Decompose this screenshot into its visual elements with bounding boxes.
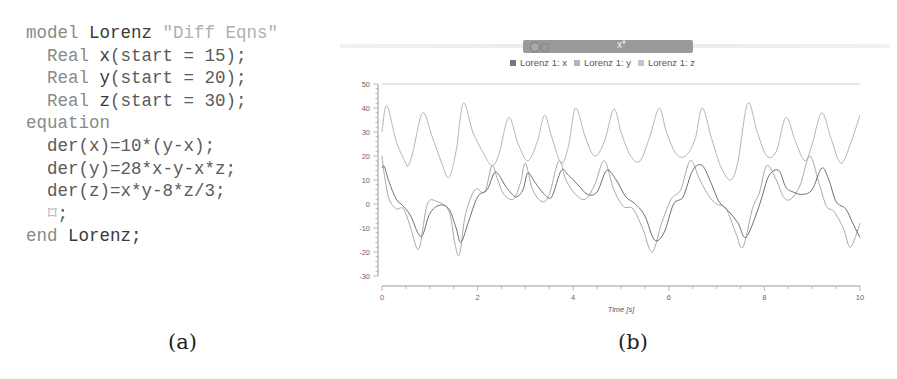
- code-line: Real x(start = 15);: [26, 45, 326, 68]
- code-token: model: [26, 23, 89, 43]
- code-token: y: [100, 68, 111, 88]
- code-token: z: [100, 91, 111, 111]
- y-tick-label: -10: [359, 224, 370, 233]
- code-token: ⌑: [47, 204, 58, 224]
- x-tick-label: 8: [762, 293, 766, 302]
- x-tick-label: 4: [571, 293, 575, 302]
- x-tick-label: 10: [856, 293, 864, 302]
- y-tick-label: -30: [359, 272, 370, 281]
- code-token: (start = 20);: [110, 68, 247, 88]
- y-tick-label: 0: [366, 200, 370, 209]
- y-tick-label: 30: [362, 128, 370, 137]
- code-token: der(z)=x*y-8*z/3;: [47, 181, 226, 201]
- caption-a: (a): [168, 330, 197, 354]
- line-chart: 50403020100-10-20-300246810Time [s]: [340, 30, 890, 330]
- code-listing: model Lorenz "Diff Eqns" Real x(start = …: [26, 22, 326, 248]
- plot-window: x* Lorenz 1: xLorenz 1: yLorenz 1: z 504…: [340, 30, 890, 330]
- y-tick-label: 50: [362, 80, 370, 89]
- code-line: der(y)=28*x-y-x*z;: [26, 158, 326, 181]
- code-token: ;: [58, 204, 69, 224]
- code-token: Lorenz: [89, 23, 163, 43]
- code-token: (start = 30);: [110, 91, 247, 111]
- x-axis-label: Time [s]: [608, 305, 636, 314]
- code-token: Real: [47, 91, 100, 111]
- y-tick-label: 10: [362, 176, 370, 185]
- x-tick-label: 2: [476, 293, 480, 302]
- x-tick-label: 6: [667, 293, 671, 302]
- code-token: der(y)=28*x-y-x*z;: [47, 159, 236, 179]
- code-token: x: [100, 46, 111, 66]
- code-line: equation: [26, 112, 326, 135]
- code-token: Real: [47, 46, 100, 66]
- code-line: der(x)=10*(y-x);: [26, 135, 326, 158]
- series-line-y: [382, 156, 860, 256]
- caption-b: (b): [618, 330, 648, 354]
- code-line: der(z)=x*y-8*z/3;: [26, 180, 326, 203]
- x-tick-label: 0: [380, 293, 384, 302]
- code-token: Lorenz;: [68, 226, 142, 246]
- code-token: (start = 15);: [110, 46, 247, 66]
- code-line: Real y(start = 20);: [26, 67, 326, 90]
- code-line: end Lorenz;: [26, 225, 326, 248]
- code-line: model Lorenz "Diff Eqns": [26, 22, 326, 45]
- code-line: Real z(start = 30);: [26, 90, 326, 113]
- code-token: der(x)=10*(y-x);: [47, 136, 215, 156]
- y-tick-label: -20: [359, 248, 370, 257]
- series-line-z: [382, 103, 860, 181]
- y-tick-label: 40: [362, 104, 370, 113]
- code-token: Real: [47, 68, 100, 88]
- code-token: "Diff Eqns": [163, 23, 279, 43]
- y-tick-label: 20: [362, 152, 370, 161]
- code-token: end: [26, 226, 68, 246]
- code-token: equation: [26, 113, 110, 133]
- code-line: ⌑;: [26, 203, 326, 226]
